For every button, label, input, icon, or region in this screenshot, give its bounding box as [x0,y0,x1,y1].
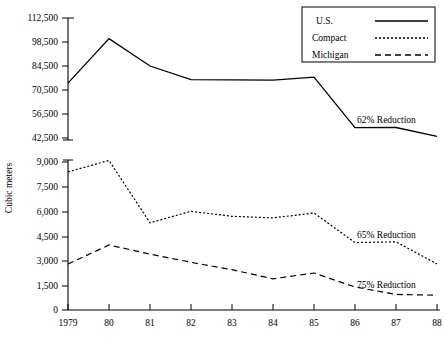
legend-label-compact: Compact [312,33,347,43]
y-tick-label: 1,500 [37,281,59,291]
x-tick-label: 88 [432,318,442,328]
x-tick-label: 82 [186,318,196,328]
x-tick-labels: 1979 80 81 82 83 84 85 86 87 88 [59,318,443,328]
annotation-us-reduction: 62% Reduction [357,115,416,125]
y-tick-label: 56,500 [32,109,58,119]
y-tick-label: 112,500 [27,13,58,23]
y-tick-label: 42,500 [32,133,58,143]
y-ticks-upper: 112,500 98,500 84,500 70,500 56,500 42,5… [27,13,74,143]
y-tick-label: 6,000 [37,207,59,217]
x-tick-label: 87 [391,318,401,328]
x-tick-label: 81 [145,318,155,328]
line-chart: Cubic meters 1979 8 [0,0,444,338]
x-tick-label: 1979 [59,318,78,328]
y-tick-label: 98,500 [32,37,58,47]
x-tick-label: 80 [104,318,114,328]
x-tick-label: 84 [268,318,278,328]
y-axis-title: Cubic meters [4,163,14,214]
legend: U.S. Compact Michigan [302,7,435,62]
y-tick-label: 3,000 [37,256,59,266]
annotation-compact-reduction: 65% Reduction [357,230,416,240]
x-tick-label: 83 [227,318,237,328]
series-line-compact [68,160,437,264]
y-tick-label: 9,000 [37,157,59,167]
x-tick-label: 86 [350,318,360,328]
legend-label-us: U.S. [316,16,333,26]
x-axis [68,304,440,310]
chart-container: Cubic meters 1979 8 [0,0,444,338]
y-tick-label: 70,500 [32,85,58,95]
y-tick-label: 84,500 [32,61,58,71]
y-axis [63,18,73,310]
x-tick-label: 85 [309,318,319,328]
y-ticks-lower: 9,000 7,500 6,000 4,500 3,000 1,500 0 [37,157,68,315]
annotation-michigan-reduction: 75% Reduction [357,280,416,290]
y-tick-label: 4,500 [37,232,59,242]
y-tick-label: 7,500 [37,182,59,192]
y-tick-label: 0 [53,305,58,315]
legend-label-michigan: Michigan [312,50,349,60]
